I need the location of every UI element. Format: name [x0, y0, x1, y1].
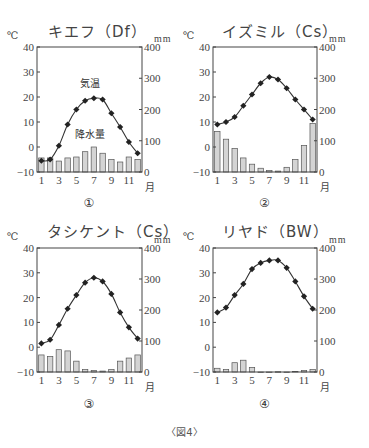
plot-area: 403020100−1040030020010001357911月気温降水量: [5, 41, 194, 196]
precipitation-bar: [56, 161, 61, 172]
right-tick-label: 400: [144, 242, 161, 254]
x-tick-label: 5: [74, 174, 80, 186]
x-tick-label: 3: [232, 174, 238, 186]
precipitation-bar: [241, 360, 246, 372]
temperature-point: [292, 278, 298, 284]
x-tick-label: 11: [299, 374, 310, 386]
right-tick-label: 100: [319, 335, 336, 347]
right-tick-label: 0: [144, 166, 150, 178]
temperature-points: [38, 275, 140, 347]
left-tick-label: 20: [199, 292, 211, 304]
plot-area: 403020100−1040030020010001357911月: [5, 242, 194, 396]
temperature-point: [38, 340, 44, 346]
x-tick-label: 1: [39, 174, 45, 186]
precipitation-bar: [241, 158, 246, 172]
x-tick-label: 9: [109, 174, 115, 186]
x-axis-label: 月: [145, 382, 155, 393]
precipitation-bar: [65, 158, 70, 172]
precipitation-bar: [39, 355, 44, 372]
right-tick-label: 100: [144, 335, 161, 347]
left-tick-label: 0: [29, 341, 35, 353]
left-tick-label: 0: [205, 341, 211, 353]
right-tick-label: 200: [319, 304, 336, 316]
temperature-line: [217, 260, 312, 313]
right-tick-label: 200: [144, 104, 161, 116]
left-tick-label: −10: [17, 366, 35, 378]
right-tick-label: 400: [319, 41, 336, 53]
x-tick-label: 1: [215, 174, 221, 186]
chart-number-label: ③: [84, 397, 95, 411]
x-tick-label: 7: [91, 374, 97, 386]
chart-title: キエフ（Df）: [48, 20, 147, 41]
left-axis-unit: ℃: [183, 231, 194, 242]
x-tick-label: 5: [249, 174, 255, 186]
x-tick-label: 5: [249, 374, 255, 386]
x-tick-label: 5: [74, 374, 80, 386]
precipitation-bars: [215, 124, 316, 172]
x-tick-label: 9: [284, 374, 290, 386]
x-tick-label: 11: [299, 174, 310, 186]
temperature-points: [214, 74, 316, 128]
left-tick-label: 10: [199, 116, 211, 128]
left-tick-label: 40: [199, 242, 211, 254]
temperature-point: [108, 291, 114, 297]
precipitation-bar: [100, 153, 105, 172]
left-tick-label: 30: [23, 66, 35, 78]
left-axis-unit: ℃: [7, 30, 18, 41]
right-tick-label: 400: [144, 41, 161, 53]
x-axis-label: 月: [145, 182, 155, 193]
left-tick-label: 0: [29, 141, 35, 153]
left-tick-label: 30: [199, 267, 211, 279]
right-tick-label: 300: [144, 273, 161, 285]
right-tick-label: 400: [319, 242, 336, 254]
temperature-point: [275, 257, 281, 263]
temperature-line: [41, 278, 137, 344]
temperature-point: [65, 121, 71, 127]
precipitation-bar: [56, 350, 61, 372]
left-tick-label: 10: [23, 116, 35, 128]
precipitation-bar: [74, 361, 79, 372]
x-axis-label: 月: [320, 182, 330, 193]
x-tick-label: 9: [109, 374, 115, 386]
temperature-point: [117, 309, 123, 315]
temperature-point: [73, 292, 79, 298]
left-tick-label: 0: [205, 141, 211, 153]
left-tick-label: 20: [23, 91, 35, 103]
right-tick-label: 200: [319, 104, 336, 116]
right-tick-label: 100: [319, 135, 336, 147]
precipitation-bar: [215, 368, 220, 372]
x-axis-label: 月: [320, 382, 330, 393]
precipitation-bar: [293, 160, 298, 173]
temperature-point: [117, 124, 123, 130]
x-tick-label: 7: [91, 174, 97, 186]
precipitation-bar: [135, 160, 140, 173]
left-tick-label: 40: [23, 242, 35, 254]
x-axis: 1357911月: [39, 174, 155, 193]
temperature-annotation: 気温: [80, 77, 100, 89]
left-tick-label: 20: [199, 91, 211, 103]
precipitation-bars: [39, 350, 141, 372]
temperature-point: [214, 309, 220, 315]
left-tick-label: 40: [23, 41, 35, 53]
x-tick-label: 9: [284, 174, 290, 186]
temperature-line: [217, 77, 312, 125]
left-tick-label: 10: [23, 316, 35, 328]
temperature-point: [266, 257, 272, 263]
precipitation-bar: [284, 167, 289, 172]
temperature-point: [65, 306, 71, 312]
temperature-point: [266, 74, 272, 80]
temperature-point: [223, 119, 229, 125]
precipitation-bar: [91, 147, 96, 172]
precipitation-annotation: 降水量: [75, 128, 105, 140]
right-tick-label: 100: [144, 135, 161, 147]
left-tick-label: −10: [17, 166, 35, 178]
chart-title: リヤド（BW）: [222, 220, 329, 241]
precipitation-bar: [215, 131, 220, 172]
plot-frame: [37, 47, 142, 172]
left-axis-unit: ℃: [183, 30, 194, 41]
precipitation-bar: [82, 152, 87, 172]
right-tick-label: 0: [144, 366, 150, 378]
precipitation-bar: [117, 162, 122, 172]
chart-title: イズミル（Cs）: [222, 20, 338, 41]
plot-frame: [37, 248, 142, 372]
